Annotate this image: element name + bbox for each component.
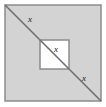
side-length-label-inner: x [54,45,58,54]
side-length-label-upper: x [28,15,32,24]
geometry-figure: x x x [0,0,106,107]
side-length-label-lower: x [82,74,86,83]
figure-canvas [0,0,106,107]
